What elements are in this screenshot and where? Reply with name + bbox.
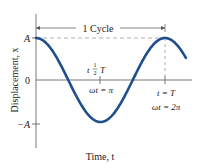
y-axis-label: Displacement, x (9, 48, 20, 113)
tick-label-a: A (23, 33, 31, 44)
displacement-time-diagram: 1 Cycle A 0 −A Displacement, x Time, t t… (0, 0, 201, 168)
svg-text:T: T (100, 65, 106, 75)
cycle-label: 1 Cycle (83, 23, 114, 34)
tick-label-zero: 0 (25, 75, 30, 86)
tick-label-neg-a: −A (17, 119, 31, 130)
half-period-wt: ωt = π (89, 85, 113, 95)
period-wt: ωt = 2π (152, 102, 181, 112)
x-axis-label: Time, t (86, 151, 115, 162)
half-period-t: t (87, 65, 90, 75)
svg-text:2: 2 (94, 70, 97, 76)
svg-text:1: 1 (94, 62, 97, 68)
period-t: t = T (157, 88, 176, 98)
